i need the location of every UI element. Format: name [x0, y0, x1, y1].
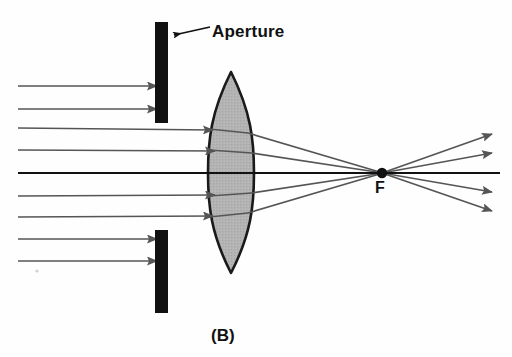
refracted-ray-1	[248, 133, 383, 173]
incoming-ray-3	[18, 128, 213, 130]
scan-speck	[35, 269, 38, 272]
figure-canvas: Aperture F (B)	[0, 0, 512, 357]
diverging-ray-1	[382, 134, 492, 173]
incoming-ray-6	[18, 195, 215, 196]
refracted-ray-3	[252, 173, 383, 193]
diverging-ray-4	[382, 173, 492, 211]
incoming-ray-7	[18, 216, 213, 217]
aperture-leader-line	[174, 27, 210, 35]
diverging-ray-3	[382, 173, 492, 192]
diverging-ray-2	[382, 153, 492, 173]
refracted-ray-2	[252, 153, 383, 173]
refracted-ray-4	[248, 173, 383, 213]
aperture-label: Aperture	[212, 22, 284, 42]
incoming-ray-4	[18, 150, 215, 151]
focal-point-label: F	[375, 179, 385, 197]
panel-label: (B)	[211, 326, 235, 346]
aperture-bar-lower	[155, 230, 168, 313]
aperture-stop	[155, 22, 168, 313]
aperture-bar-upper	[155, 22, 168, 123]
ray-diagram-svg	[0, 0, 512, 357]
focal-point-dot	[377, 168, 387, 178]
